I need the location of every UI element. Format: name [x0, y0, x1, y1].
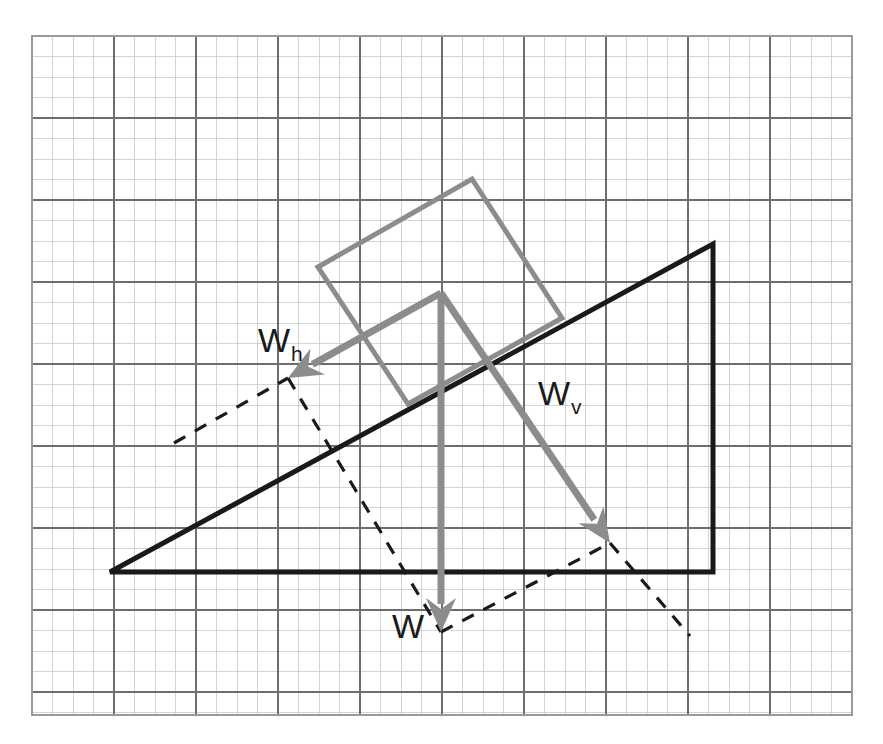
weight-horizontal-component-vector-label-subscript: h [291, 342, 303, 365]
weight-vertical-component-vector-label-subscript: v [571, 395, 582, 418]
weight-vector-label: W [392, 607, 424, 645]
inclined-plane-figure: WhWvW [0, 0, 883, 744]
diagram-canvas: WhWvW [0, 0, 883, 744]
